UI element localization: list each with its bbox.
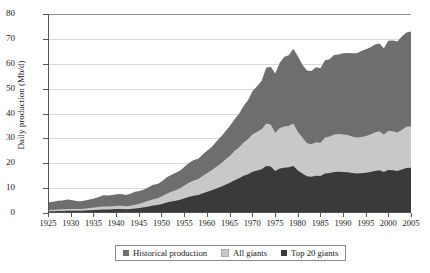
legend-swatch-icon (123, 250, 129, 256)
x-tickmark-1975 (275, 213, 276, 217)
legend-item-historical-production: Historical production (123, 248, 207, 258)
y-tick-20: 20 (0, 158, 15, 167)
x-tickmark-1970 (252, 213, 253, 217)
x-tickmark-1960 (207, 213, 208, 217)
y-tick-10: 10 (0, 183, 15, 192)
x-tickmark-1950 (161, 213, 162, 217)
legend-swatch-icon (281, 250, 287, 256)
y-tick-50: 50 (0, 84, 15, 93)
x-tickmark-1980 (298, 213, 299, 217)
chart-legend: Historical productionAll giantsTop 20 gi… (115, 245, 346, 261)
legend-label: All giants (233, 248, 267, 258)
x-tickmark-1965 (230, 213, 231, 217)
legend-item-all-giants: All giants (221, 248, 267, 258)
y-tick-0: 0 (0, 208, 15, 217)
x-tickmark-1995 (366, 213, 367, 217)
x-tickmark-1985 (320, 213, 321, 217)
area-series-container (49, 14, 411, 212)
y-tick-60: 60 (0, 59, 15, 68)
x-tickmark-1940 (116, 213, 117, 217)
x-tickmark-1935 (93, 213, 94, 217)
x-tickmark-2000 (388, 213, 389, 217)
x-tickmark-2005 (411, 213, 412, 217)
legend-swatch-icon (221, 249, 229, 257)
legend-item-top-20-giants: Top 20 giants (281, 248, 338, 258)
x-tickmark-1925 (48, 213, 49, 217)
plot-area (48, 14, 411, 213)
stacked-area-chart (49, 14, 411, 212)
x-tickmark-1955 (184, 213, 185, 217)
y-tick-30: 30 (0, 133, 15, 142)
y-tick-80: 80 (0, 9, 15, 18)
x-tickmark-1930 (71, 213, 72, 217)
legend-label: Historical production (133, 248, 207, 258)
x-tickmark-1945 (139, 213, 140, 217)
y-tick-40: 40 (0, 109, 15, 118)
legend-label: Top 20 giants (291, 248, 338, 258)
x-tick-2005: 2005 (391, 218, 430, 228)
y-axis-title: Daily production (Mb/d) (16, 20, 26, 190)
y-tick-70: 70 (0, 34, 15, 43)
chart-figure: Daily production (Mb/d) 0102030405060708… (0, 0, 430, 273)
x-tickmark-1990 (343, 213, 344, 217)
